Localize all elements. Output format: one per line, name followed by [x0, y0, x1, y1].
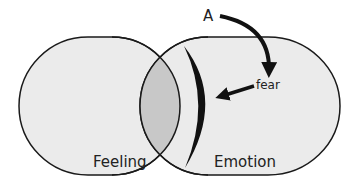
- annotation-fear-label: fear: [256, 78, 280, 92]
- emotion-label: Emotion: [214, 153, 276, 171]
- feeling-label: Feeling: [93, 153, 147, 171]
- venn-diagram: A fear Feeling Emotion: [0, 0, 358, 185]
- annotation-a-label: A: [203, 7, 214, 25]
